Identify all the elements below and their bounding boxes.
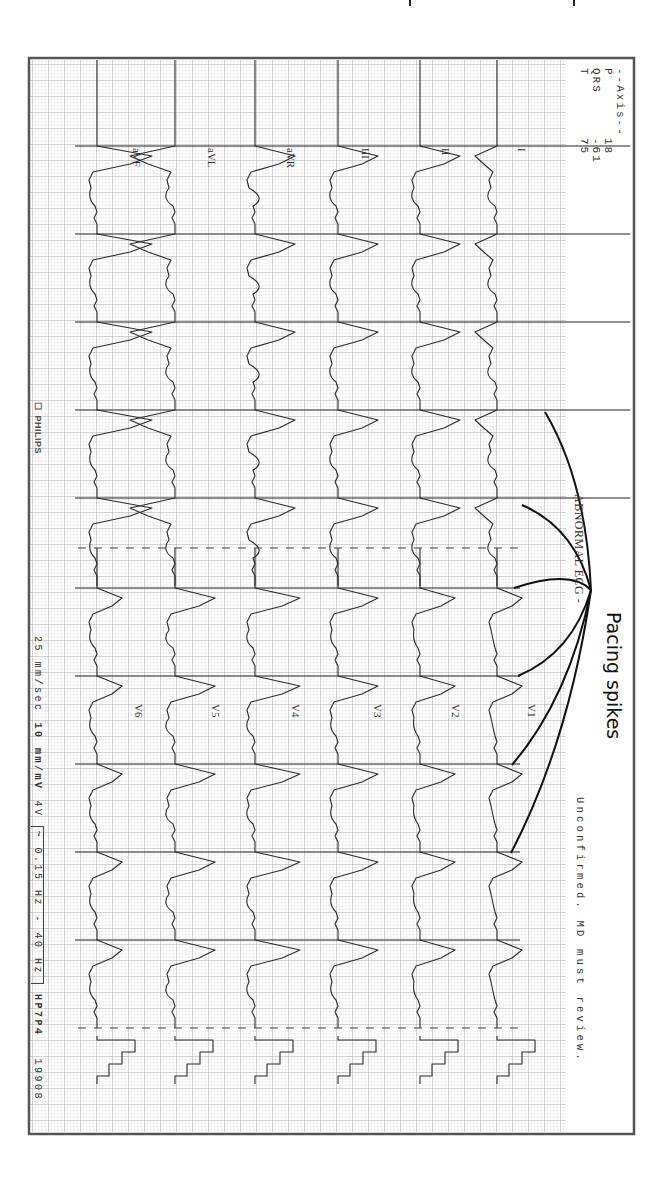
lead-label-V5: V5 — [210, 704, 222, 717]
footer-settings: 25 mm/sec 10 mm/mV 4V ~ 0.15 Hz - 40 Hz … — [31, 636, 44, 1101]
ecg-printout — [0, 0, 668, 1198]
lead-label-aVR: aVR — [285, 148, 297, 168]
axis-block: --Axis-- P18 QRS-61 T75 — [578, 68, 626, 164]
lead-label-V4: V4 — [290, 704, 302, 717]
lead-gain: 4V — [32, 801, 43, 818]
top-tick — [409, 0, 411, 6]
paper-speed: 25 mm/sec — [32, 636, 43, 713]
lead-label-II: II — [440, 148, 452, 155]
axis-t-label: T — [578, 68, 590, 138]
top-tick — [573, 0, 575, 6]
device-id: HP7P4 — [32, 994, 43, 1037]
philips-logo: ☐PHILIPS — [33, 402, 43, 454]
axis-p-value: 18 — [602, 138, 614, 155]
lead-label-V2: V2 — [450, 704, 462, 717]
lead-label-V1: V1 — [526, 704, 538, 717]
device-code: 19908 — [32, 1059, 43, 1102]
gain-setting: 10 mm/mV — [32, 723, 43, 791]
filter-box: ~ 0.15 Hz - 40 Hz — [31, 826, 44, 985]
axis-t-value: 75 — [578, 138, 590, 155]
lead-label-III: III — [360, 148, 372, 159]
lead-label-I: I — [516, 148, 528, 152]
interpretation-text: ABNORMAL ECG - — [571, 494, 586, 603]
pacing-spikes-label: Pacing spikes — [603, 612, 625, 739]
axis-qrs-value: -61 — [590, 138, 602, 164]
lead-label-aVL: aVL — [206, 148, 218, 168]
axis-qrs-label: QRS — [590, 68, 602, 138]
axis-p-label: P — [602, 68, 614, 138]
lead-label-V6: V6 — [133, 704, 145, 717]
disclaimer-text: Unconfirmed. MD must review. — [574, 797, 586, 1063]
axis-title: --Axis-- — [614, 68, 626, 164]
lead-label-aVF: aVF — [131, 148, 143, 167]
grid-paper — [31, 60, 566, 1132]
philips-shield-icon: ☐ — [33, 402, 43, 411]
brand-name: PHILIPS — [33, 416, 43, 455]
lead-label-V3: V3 — [372, 704, 384, 717]
